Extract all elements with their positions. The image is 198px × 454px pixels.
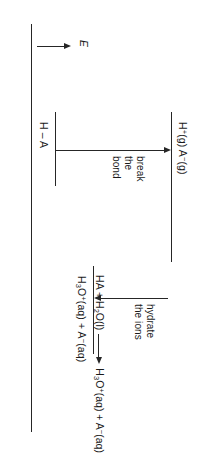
energy-axis-shaft [37, 46, 65, 47]
equation-reactants: HA + H2O(l) [92, 275, 106, 330]
step-arrow-break-bond [56, 150, 165, 151]
level-label-reactant: H – A [38, 122, 50, 148]
axis-baseline [31, 24, 32, 432]
level-line-reactant [55, 112, 56, 186]
step-label-hydrate-ions: hydrate the ions [132, 304, 156, 340]
equation-products: H3O+(aq) + A−(aq) [92, 368, 106, 453]
energy-axis-label: E [78, 40, 90, 47]
step-arrowhead-break-bond [164, 147, 171, 153]
step-label-break-bond: break the bond [111, 156, 146, 182]
level-label-intermediate: H+(g) A−(g) [177, 122, 189, 175]
overall-reaction-equation: HA + H2O(l) H3O+(aq) + A−(aq) [87, 274, 111, 454]
level-label-product: H3O+(aq) + A−(aq) [73, 276, 88, 362]
caption-stage: HA + H2O(l) H3O+(aq) + A−(aq) [87, 274, 111, 454]
energy-axis-arrowhead [64, 43, 71, 49]
level-line-intermediate [171, 112, 172, 262]
reaction-arrow-icon [95, 334, 103, 364]
